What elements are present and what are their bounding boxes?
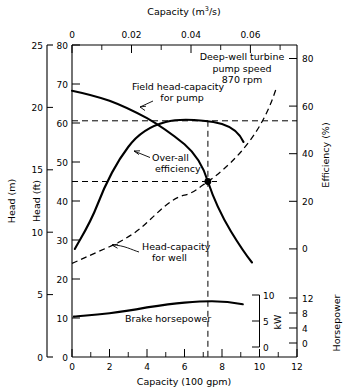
capacity-gpm-axis: 0 2 4 6 8 10 12 Capacity (100 gpm) [69,349,303,387]
kw-ticklabel-10: 10 [263,291,275,301]
chart-svg: 25 20 15 10 5 0 Head (m) 80 70 60 50 40 … [0,0,357,390]
capacity-si-axis-title: Capacity (m3/s) [147,5,221,17]
cap-si-ticklabel-004: 0.04 [181,30,201,40]
cap-si-ticklabel-006: 0.06 [240,30,260,40]
pump-curve-label: Field head-capacity for pump [132,81,225,111]
head-ft-ticklabel-60: 60 [57,119,69,129]
capacity-si-axis: 0 0.02 0.04 0.06 Capacity (m3/s) [69,5,280,53]
head-m-ticklabel-25: 25 [32,41,43,51]
head-ft-axis-title: Head (ft) [31,180,42,222]
eff-ticklabel-40: 40 [302,149,314,159]
hp-ticklabel-4: 4 [302,324,308,334]
efficiency-axis-title: Efficiency (%) [320,122,331,187]
efficiency-axis: 80 60 40 20 0 Efficiency (%) [289,54,331,254]
pump-curve-arrowhead [140,106,146,110]
cap-gpm-ticklabel-4: 4 [144,362,150,372]
efficiency-curve [75,120,244,249]
bhp-curve-label: Brake horsepower [125,313,211,324]
eff-ticklabel-20: 20 [302,197,314,207]
head-ft-ticklabel-80: 80 [57,41,69,51]
efficiency-curve-label-line1: Over-all [152,152,189,163]
hp-ticklabel-0: 0 [302,339,308,349]
cap-gpm-ticklabel-10: 10 [254,362,266,372]
head-m-axis: 25 20 15 10 5 0 Head (m) [6,41,53,363]
pump-curve-path [72,91,252,263]
efficiency-curve-leader [134,151,150,158]
head-ft-axis: 80 70 60 50 40 30 20 10 0 Head (ft) [31,41,80,363]
operating-point-dot [205,178,212,185]
kw-ticklabel-5: 5 [263,317,269,327]
cap-gpm-ticklabel-12: 12 [291,362,302,372]
pump-speed-note-line2: pump speed [212,63,271,74]
efficiency-curve-label: Over-all efficiency [134,151,201,174]
head-ft-ticklabel-0: 0 [62,353,68,363]
cap-gpm-ticklabel-8: 8 [219,362,225,372]
capacity-gpm-axis-title: Capacity (100 gpm) [137,376,231,387]
hp-ticklabel-12: 12 [302,294,313,304]
pump-curve-label-line2: for pump [160,92,203,103]
well-curve-leader [112,245,139,252]
head-m-ticklabel-15: 15 [32,165,43,175]
pump-speed-note-line3: 870 rpm [222,74,262,85]
horsepower-axis-title: Horsepower [331,294,342,351]
head-ft-ticklabel-70: 70 [57,80,69,90]
eff-ticklabel-80: 80 [302,54,314,64]
head-ft-ticklabel-40: 40 [57,197,69,207]
head-m-ticklabel-5: 5 [37,290,43,300]
efficiency-curve-label-line2: efficiency [155,163,201,174]
cap-gpm-ticklabel-6: 6 [182,362,188,372]
kw-inset-axis: 10 5 0 kW [252,291,283,353]
operating-point [205,178,212,185]
cap-gpm-ticklabel-0: 0 [69,362,75,372]
bhp-curve-label-text: Brake horsepower [125,313,211,324]
head-ft-ticklabel-10: 10 [57,314,69,324]
well-curve-label-line2: for well [152,252,187,263]
cap-si-ticklabel-002: 0.02 [121,30,141,40]
pump-curve-leader [140,101,153,107]
cap-si-ticklabel-0: 0 [69,30,75,40]
kw-ticklabel-0: 0 [263,343,269,353]
pump-speed-note-line1: Deep-well turbine [200,51,285,62]
head-m-ticklabel-20: 20 [32,103,44,113]
well-head-capacity-curve [72,89,276,263]
pump-head-capacity-curve [72,91,252,263]
kw-axis-title: kW [272,314,283,330]
pump-curve-label-line1: Field head-capacity [132,81,225,92]
head-ft-ticklabel-30: 30 [57,236,69,246]
well-curve-label-line1: Head-capacity [142,241,211,252]
hp-ticklabel-8: 8 [302,309,308,319]
pump-speed-note: Deep-well turbine pump speed 870 rpm [200,51,285,85]
well-curve-arrowhead [112,244,118,248]
well-curve-label: Head-capacity for well [112,241,211,263]
head-m-axis-title: Head (m) [6,179,17,224]
head-ft-ticklabel-50: 50 [57,158,69,168]
eff-ticklabel-60: 60 [302,102,314,112]
head-ft-ticklabel-20: 20 [57,275,69,285]
head-m-ticklabel-10: 10 [32,228,44,238]
head-m-ticklabel-0: 0 [37,353,43,363]
pump-performance-chart: 25 20 15 10 5 0 Head (m) 80 70 60 50 40 … [0,0,357,390]
efficiency-curve-path [75,120,244,249]
well-curve-path [72,89,276,263]
eff-ticklabel-0: 0 [302,244,308,254]
cap-gpm-ticklabel-2: 2 [107,362,113,372]
